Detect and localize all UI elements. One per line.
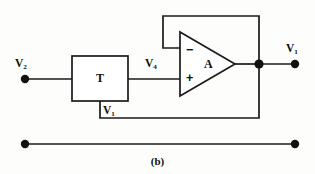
label-mid-v4-subscript: 4	[153, 63, 157, 71]
terminal-dot-ground-right	[291, 140, 299, 148]
label-input-v2-subscript: 2	[23, 63, 27, 71]
junction-dot-output-node	[254, 59, 263, 68]
circuit-diagram-figure: V2 T V4 − + A V1 V1 (b)	[0, 0, 315, 174]
terminal-dot-ground-left	[21, 140, 29, 148]
label-feedback-v1: V1	[103, 105, 115, 117]
label-mid-v4: V4	[145, 58, 157, 70]
label-feedback-v1-subscript: 1	[111, 110, 115, 118]
terminal-dot-input-v2	[21, 75, 29, 83]
figure-caption: (b)	[0, 156, 315, 167]
label-output-v1-subscript: 1	[294, 48, 298, 56]
label-noninverting-input-sign: +	[186, 72, 193, 85]
label-input-v2: V2	[15, 58, 27, 70]
label-block-t: T	[96, 72, 104, 84]
circuit-schematic-svg	[0, 0, 315, 174]
label-inverting-input-sign: −	[186, 44, 193, 57]
terminal-dot-output-v1	[291, 60, 299, 68]
label-output-v1: V1	[286, 43, 298, 55]
label-amp-gain: A	[204, 58, 213, 70]
